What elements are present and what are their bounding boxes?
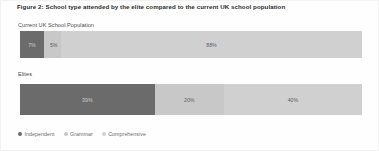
legend-item-label: Comprehensive: [108, 131, 146, 137]
figure-container: Figure 2: School type attended by the el…: [0, 0, 379, 151]
chart-title: Figure 2: School type attended by the el…: [17, 3, 285, 11]
stacked-bar-current-uk-school-population: 7% 5% 88%: [20, 31, 362, 58]
bar-segment-comprehensive[interactable]: 40%: [224, 84, 362, 115]
stacked-bar-elites: 39% 20% 40%: [20, 84, 362, 115]
legend-item-independent[interactable]: Independent: [18, 131, 55, 137]
bar-segment-independent[interactable]: 7%: [20, 31, 44, 58]
legend-item-grammar[interactable]: Grammar: [64, 131, 93, 137]
bar-segment-value-label: 88%: [206, 42, 217, 48]
bar-group-label-elites: Elites: [18, 71, 32, 77]
legend-swatch-icon: [64, 132, 68, 136]
legend-swatch-icon: [18, 132, 22, 136]
legend-item-label: Independent: [25, 131, 55, 137]
bar-segment-value-label: 5%: [50, 42, 58, 48]
bar-group-label-current-uk-school-population: Current UK School Population: [18, 22, 94, 28]
bar-segment-independent[interactable]: 39%: [20, 84, 155, 115]
bar-segment-grammar[interactable]: 20%: [155, 84, 224, 115]
legend-swatch-icon: [102, 132, 106, 136]
bar-segment-value-label: 7%: [28, 42, 36, 48]
bar-segment-value-label: 40%: [288, 97, 299, 103]
bar-segment-value-label: 39%: [82, 97, 93, 103]
legend-item-label: Grammar: [70, 131, 93, 137]
bar-segment-grammar[interactable]: 5%: [44, 31, 61, 58]
bar-segment-comprehensive[interactable]: 88%: [61, 31, 362, 58]
chart-legend: Independent Grammar Comprehensive: [18, 131, 146, 137]
legend-item-comprehensive[interactable]: Comprehensive: [102, 131, 146, 137]
bar-segment-value-label: 20%: [184, 97, 195, 103]
